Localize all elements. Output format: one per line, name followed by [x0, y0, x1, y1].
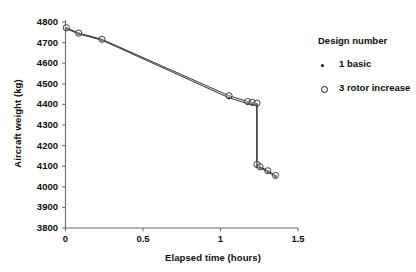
legend-title: Design number [318, 35, 387, 46]
dot-marker-icon [321, 64, 324, 67]
data-point-open-circle [76, 30, 82, 36]
data-point-open-circle [63, 25, 69, 31]
legend-entry-3-rotor-increase: 3 rotor increase [339, 82, 410, 93]
data-point-open-circle [254, 100, 260, 106]
data-point-open-circle [265, 168, 271, 174]
data-point-open-circle [99, 36, 105, 42]
data-point-open-circle [226, 93, 232, 99]
chart-figure: Aircraft weight (kg) Elapsed time (hours… [0, 0, 416, 272]
circle-marker-icon [321, 86, 328, 93]
series-line [66, 29, 275, 177]
data-point-open-circle [257, 164, 263, 170]
data-point-open-circle [272, 172, 278, 178]
legend-entry-1-basic: 1 basic [339, 58, 371, 69]
